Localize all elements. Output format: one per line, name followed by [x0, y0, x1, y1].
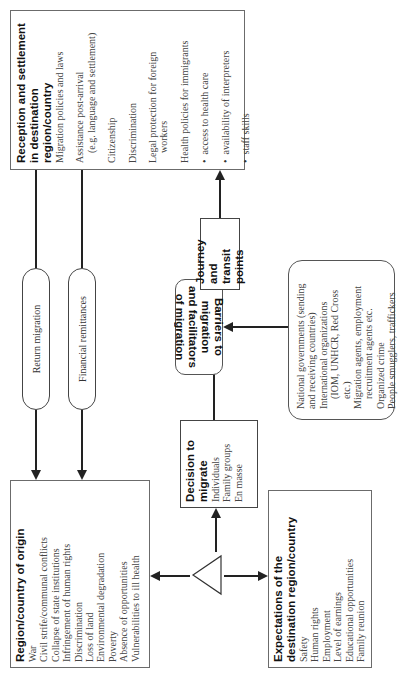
actors-item: recruitment agents etc. [363, 271, 374, 409]
origin-item: Civil strife/communal conflicts [38, 486, 49, 662]
connector-line [81, 170, 83, 268]
connector-line [224, 575, 258, 577]
connector-line [81, 410, 83, 470]
expectations-item: Employment [321, 496, 332, 662]
origin-item: Loss of land [84, 486, 95, 662]
origin-item: Absence of opportunities [118, 486, 129, 662]
reception-item: Discrimination [127, 17, 138, 163]
arrow-head [223, 322, 233, 332]
journey-line2: transit points [220, 224, 246, 284]
reception-item: workers [158, 17, 169, 163]
actors-item: (IOM, UNHCR, Red Cross etc.) [329, 271, 352, 409]
journey-box: Journey and transit points [200, 218, 240, 290]
expectations-box: Expectations of the destination region/c… [268, 490, 372, 668]
actors-box: National governments (sending and receiv… [288, 260, 395, 420]
origin-item: Collapse of state institutions [50, 486, 61, 662]
origin-item: War [27, 486, 38, 662]
financial-remittances-label: Financial remittances [68, 268, 96, 410]
expectations-item: Family reunion [355, 496, 366, 662]
connector-line [35, 410, 37, 470]
triangle-node-icon [190, 552, 224, 598]
actors-item: and receiving countries) [306, 271, 317, 409]
arrow-head [215, 170, 225, 180]
decision-box: Decision to migrate Individuals Family g… [180, 420, 258, 508]
reception-bullet: access to health care [199, 17, 210, 163]
connector-line [35, 170, 37, 268]
reception-bullet: availability of interpreters [220, 17, 231, 163]
reception-item: Migration policies and laws [54, 17, 65, 163]
expectations-item: Safety [298, 496, 309, 662]
arrow-head [258, 571, 268, 581]
connector-line [213, 373, 215, 420]
decision-item: Family groups [221, 426, 232, 502]
reception-title-line2: in destination [28, 17, 41, 163]
barriers-line2: and facilitators of migration [173, 280, 199, 374]
origin-item: Vulnerabilities to ill health [130, 486, 141, 662]
expectations-title-line1: Expectations of the [272, 496, 285, 662]
reception-box: Reception and settlement in destination … [10, 10, 245, 170]
reception-item: (e.g. language and settlement) [86, 17, 97, 163]
reception-item: Health policies for immigrants [179, 17, 190, 163]
connector-line [233, 326, 288, 328]
reception-title-line1: Reception and settlement [15, 17, 28, 163]
reception-title-line3: region/country [41, 17, 54, 163]
origin-box: Region/country of origin War Civil strif… [10, 480, 150, 668]
expectations-title-line2: destination region/country [285, 496, 298, 662]
reception-bullet: staff skills [240, 17, 251, 163]
arrow-head [150, 571, 160, 581]
connector-line [219, 180, 221, 218]
arrow-head [31, 470, 41, 480]
decision-title: Decision to migrate [184, 426, 210, 502]
expectations-item: Educational opportunities [344, 496, 355, 662]
actors-item: National governments (sending [295, 271, 306, 409]
actors-item: People smugglers, traffickers [386, 271, 397, 409]
return-migration-label: Return migration [22, 268, 50, 410]
arrow-head [211, 508, 221, 518]
actors-item: International organizations [318, 271, 329, 409]
expectations-item: Level of earnings [332, 496, 343, 662]
barriers-box: Barriers to migration and facilitators o… [175, 279, 223, 375]
expectations-item: Human rights [309, 496, 320, 662]
connector-line [215, 518, 217, 552]
actors-item: Migration agents, employment [352, 271, 363, 409]
actors-item: Organized crime [375, 271, 386, 409]
origin-item: Poverty [107, 486, 118, 662]
origin-title: Region/country of origin [14, 486, 27, 662]
journey-line1: Journey and [194, 224, 220, 284]
origin-item: Environmental degradation [95, 486, 106, 662]
barriers-line1: Barriers to migration [199, 280, 225, 374]
reception-item: Legal protection for foreign [147, 17, 158, 163]
decision-item: En masse [233, 426, 244, 502]
reception-item: Assistance post-arrival [74, 17, 85, 163]
origin-item: Infringement of human rights [61, 486, 72, 662]
arrow-head [77, 470, 87, 480]
decision-item: Individuals [210, 426, 221, 502]
migration-diagram: Region/country of origin War Civil strif… [0, 0, 404, 677]
origin-item: Discrimination [73, 486, 84, 662]
reception-item: Citizenship [106, 17, 117, 163]
